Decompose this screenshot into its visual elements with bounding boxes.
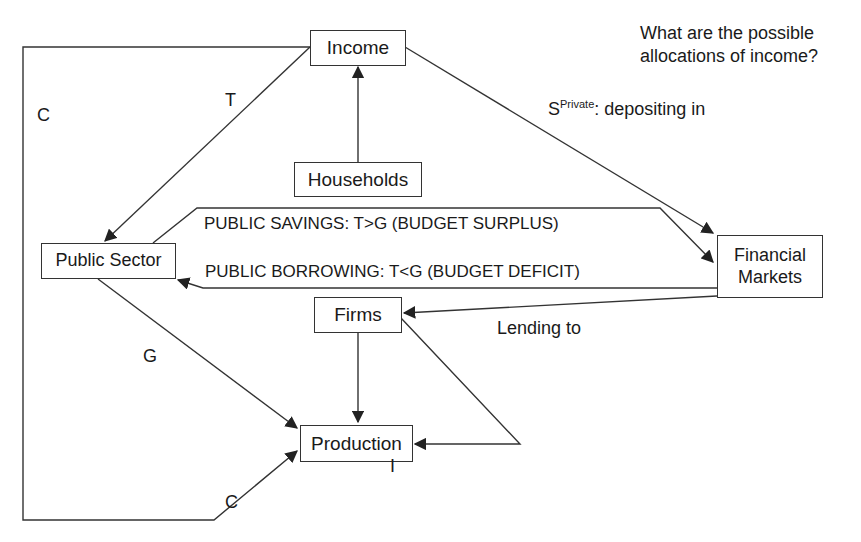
node-production-label: Production <box>311 432 402 455</box>
node-production[interactable]: Production <box>300 425 413 462</box>
node-financial-markets-label-2: Markets <box>738 267 802 289</box>
question-line-2: allocations of income? <box>640 45 818 68</box>
node-households-label: Households <box>308 168 408 191</box>
node-public-sector-label: Public Sector <box>55 250 161 272</box>
label-government-spending: G <box>143 346 157 367</box>
arrow-government-spending <box>98 279 297 428</box>
label-consumption-to-production: C <box>225 492 238 513</box>
label-taxes: T <box>225 90 236 111</box>
label-lending: Lending to <box>497 318 581 339</box>
node-financial-markets[interactable]: Financial Markets <box>717 235 823 298</box>
label-public-borrowing: PUBLIC BORROWING: T<G (BUDGET DEFICIT) <box>205 262 580 282</box>
label-private-savings: SPrivate: depositing in <box>548 98 705 120</box>
arrow-income-to-public-sector <box>105 47 310 241</box>
arrow-consumption-loop <box>23 47 310 520</box>
arrow-income-to-financial-markets <box>405 47 713 233</box>
node-firms-label: Firms <box>334 303 381 326</box>
arrow-lending-to-firms <box>404 296 717 313</box>
private-savings-text: : depositing in <box>594 99 705 119</box>
label-investment: I <box>390 456 395 477</box>
node-households[interactable]: Households <box>294 162 422 197</box>
private-savings-superscript: Private <box>560 98 594 110</box>
node-firms[interactable]: Firms <box>314 297 402 333</box>
label-consumption-loop: C <box>37 105 50 126</box>
node-public-sector[interactable]: Public Sector <box>41 243 176 279</box>
node-income-label: Income <box>327 36 389 59</box>
node-income[interactable]: Income <box>310 30 406 66</box>
node-financial-markets-label-1: Financial <box>734 245 806 267</box>
private-savings-symbol: S <box>548 99 560 119</box>
question-line-1: What are the possible <box>640 22 818 45</box>
question-text: What are the possible allocations of inc… <box>640 22 818 67</box>
label-public-savings: PUBLIC SAVINGS: T>G (BUDGET SURPLUS) <box>204 214 559 234</box>
